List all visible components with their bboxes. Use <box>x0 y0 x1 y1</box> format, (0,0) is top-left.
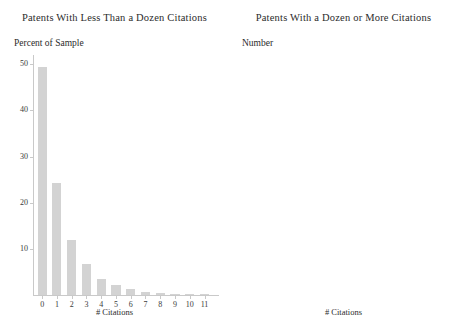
x-tick-plot-left-1 <box>57 296 58 299</box>
x-tick-plot-left-3 <box>86 296 87 299</box>
x-axis-line-plot-left <box>33 295 219 296</box>
y-tick-label-plot-left-1: 20 <box>3 198 28 207</box>
bar-plot-left-8 <box>156 293 165 295</box>
bar-plot-left-7 <box>141 292 150 295</box>
x-tick-plot-left-4 <box>101 296 102 299</box>
bar-plot-left-1 <box>52 183 61 295</box>
y-tick-plot-left-0 <box>30 249 33 250</box>
x-tick-plot-left-6 <box>131 296 132 299</box>
x-tick-plot-left-10 <box>190 296 191 299</box>
bar-plot-left-0 <box>38 67 47 295</box>
bar-plot-left-11 <box>200 294 209 295</box>
y-tick-label-plot-left-4: 50 <box>3 59 28 68</box>
x-tick-plot-left-0 <box>42 296 43 299</box>
x-axis-title-left: # Citations <box>0 307 229 317</box>
x-tick-plot-left-7 <box>145 296 146 299</box>
x-tick-plot-left-5 <box>116 296 117 299</box>
bar-plot-left-10 <box>185 294 194 295</box>
x-tick-plot-left-9 <box>175 296 176 299</box>
panel-right-chart: Patents With a Dozen or More Citations N… <box>229 0 458 325</box>
y-tick-plot-left-2 <box>30 157 33 158</box>
x-axis-title-right: # Citations <box>229 307 458 317</box>
y-tick-label-plot-left-0: 10 <box>3 244 28 253</box>
y-tick-label-plot-left-2: 30 <box>3 152 28 161</box>
bar-plot-left-3 <box>82 264 91 295</box>
x-tick-plot-left-11 <box>205 296 206 299</box>
y-tick-plot-left-3 <box>30 110 33 111</box>
bar-plot-left-6 <box>126 289 135 295</box>
plot-area-right: 2004006008001020304050 <box>229 0 458 325</box>
bar-plot-left-9 <box>170 294 179 295</box>
y-axis-line-plot-left <box>33 55 34 295</box>
panel-left-chart: Patents With Less Than a Dozen Citations… <box>0 0 229 325</box>
y-tick-plot-left-1 <box>30 203 33 204</box>
y-tick-label-plot-left-3: 40 <box>3 105 28 114</box>
x-tick-plot-left-2 <box>72 296 73 299</box>
bar-plot-left-4 <box>97 279 106 295</box>
x-tick-plot-left-8 <box>160 296 161 299</box>
bar-plot-left-2 <box>67 240 76 295</box>
bar-plot-left-5 <box>111 285 120 295</box>
plot-area-left: 102030405001234567891011 <box>0 0 229 325</box>
y-tick-plot-left-4 <box>30 64 33 65</box>
